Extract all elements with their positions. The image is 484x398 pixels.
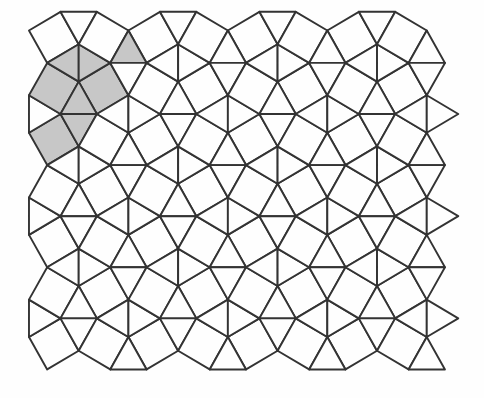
figure-page (0, 0, 484, 398)
triangle-tile (427, 95, 459, 132)
tiling-tile-group (29, 12, 458, 370)
snub-square-tiling-figure (0, 0, 484, 398)
triangle-tile (427, 197, 459, 234)
triangle-tile (427, 300, 459, 337)
